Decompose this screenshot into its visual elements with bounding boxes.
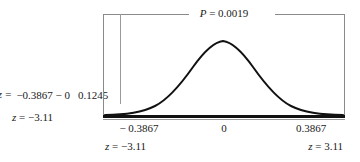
z-score-axis-labels: z = −3.11 z = 3.11 [103, 140, 345, 156]
z-label-right: z = 3.11 [308, 140, 343, 152]
curve-path [105, 41, 343, 115]
x-axis-tick-labels: − 0.3867 0 0.3867 [103, 122, 345, 138]
formula-equals-sign: = [5, 88, 14, 100]
formula-fraction: −0.3867 − 0 0.1245 [14, 86, 110, 102]
formula-fraction-row: z = −0.3867 − 0 0.1245 [6, 86, 102, 102]
distribution-plot-box: P = 0.0019 [103, 14, 345, 118]
normal-curve [103, 14, 345, 118]
x-tick-left: − 0.3867 [101, 122, 177, 134]
axis-baseline-shadow [103, 119, 345, 120]
z-label-left: z = −3.11 [105, 140, 146, 152]
statistics-figure: z = −0.3867 − 0 0.1245 z = −3.11 P = 0.0… [0, 0, 360, 162]
x-tick-center: 0 [186, 122, 262, 134]
formula-result-equals: = [16, 111, 28, 123]
x-tick-right: 0.3867 [273, 122, 349, 134]
formula-result-value: −3.11 [28, 111, 53, 123]
axis-baseline [103, 115, 345, 118]
formula-numerator: −0.3867 − 0 [14, 89, 72, 102]
z-label-left-value: = −3.11 [109, 140, 146, 152]
z-label-right-value: = 3.11 [312, 140, 343, 152]
formula-result: z = −3.11 [6, 111, 102, 123]
z-score-formula: z = −0.3867 − 0 0.1245 z = −3.11 [6, 86, 102, 123]
mean-vertical-line [120, 14, 121, 104]
